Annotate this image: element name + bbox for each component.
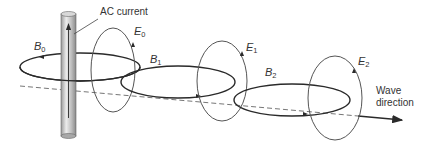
- wave-direction-arrow: [358, 116, 402, 120]
- em-wave-diagram: AC current B0 E0 B1 E1 B2 E2 Wave direct…: [0, 0, 431, 150]
- e1-label: E1: [246, 41, 258, 55]
- e0-direction-arrow: [131, 42, 135, 47]
- e1-field-loop: [197, 41, 247, 121]
- e0-label: E0: [134, 25, 146, 39]
- b2-label: B2: [265, 66, 277, 80]
- e0-field-loop: [91, 28, 135, 112]
- b1-field-loop: [121, 66, 235, 98]
- wave-direction-label-line1: Wave: [376, 85, 402, 96]
- ac-current-label: AC current: [100, 6, 148, 17]
- ac-current-conductor: [61, 12, 76, 139]
- diagram-canvas: AC current B0 E0 B1 E1 B2 E2 Wave direct…: [0, 0, 431, 150]
- b0-label: B0: [34, 40, 46, 54]
- ac-current-leader: [74, 19, 98, 34]
- e2-label: E2: [358, 55, 370, 69]
- wave-direction-label-line2: direction: [376, 97, 414, 108]
- b1-label: B1: [150, 53, 162, 67]
- b2-field-loop: [234, 84, 350, 116]
